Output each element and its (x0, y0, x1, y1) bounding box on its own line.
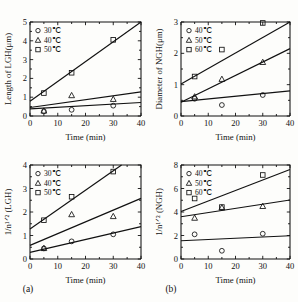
x-tick-label: 10 (204, 118, 213, 128)
y-tick-label: 5 (23, 17, 27, 27)
x-tick-label: 10 (204, 261, 213, 271)
legend-label: 30℃ (44, 26, 61, 35)
y-tick-label: 3 (23, 55, 27, 65)
chart-svg-bottom-right: 01020304002468Time (min)1/n¹ᐟ² (NGH)40℃5… (149, 151, 298, 302)
x-tick-label: 0 (28, 118, 32, 128)
x-tick-label: 30 (109, 118, 118, 128)
y-tick-label: 0 (23, 111, 27, 121)
chart-panel-bottom-left: 01020304001234Time (min)1/n¹ᐟ² (LGH)30℃4… (0, 151, 149, 302)
legend-label: 50℃ (44, 45, 61, 54)
y-tick-label: 0 (174, 254, 178, 264)
y-tick-label: 1 (174, 80, 178, 90)
fit-line-series-0 (181, 91, 290, 102)
x-axis-label: Time (min) (216, 132, 256, 142)
data-point-triangle (69, 211, 75, 216)
chart-svg-top-right: 0102030400123Time (min)Diameter of NGH(μ… (149, 0, 298, 151)
figure-grid: 010203040012345Time (min)Length of LGH(μ… (0, 0, 298, 302)
chart-svg-bottom-left: 01020304001234Time (min)1/n¹ᐟ² (LGH)30℃4… (0, 151, 149, 302)
legend-marker-triangle (186, 37, 191, 42)
x-tick-label: 0 (179, 261, 183, 271)
y-axis-label: Length of LGH(μm) (3, 33, 13, 105)
data-point-triangle (110, 96, 116, 101)
legend-marker-square (36, 47, 40, 51)
data-point-circle (219, 248, 224, 253)
data-point-circle (219, 103, 224, 108)
fit-line-series-0 (181, 236, 290, 241)
legend-marker-triangle (35, 180, 40, 185)
x-tick-label: 40 (286, 261, 295, 271)
legend-label: 50℃ (195, 36, 212, 45)
legend-label: 60℃ (195, 45, 212, 54)
y-tick-label: 2 (23, 73, 27, 83)
data-point-square (260, 173, 265, 178)
legend-marker-square (187, 190, 191, 194)
legend-marker-circle (187, 28, 191, 32)
x-tick-label: 0 (28, 261, 32, 271)
x-tick-label: 30 (109, 261, 118, 271)
panel-label: (b) (165, 284, 176, 295)
x-tick-label: 20 (81, 118, 90, 128)
x-tick-label: 40 (137, 261, 146, 271)
data-point-circle (192, 232, 197, 237)
legend-marker-circle (187, 171, 191, 175)
x-axis-label: Time (min) (216, 275, 256, 285)
fit-line-series-1 (181, 200, 290, 217)
y-tick-label: 3 (23, 184, 27, 194)
panel-label: (a) (23, 284, 34, 295)
y-tick-label: 2 (174, 231, 178, 241)
data-point-triangle (110, 213, 116, 218)
data-point-circle (69, 107, 74, 112)
data-point-circle (260, 231, 265, 236)
y-tick-label: 4 (23, 36, 28, 46)
y-axis-label: Diameter of NGH(μm) (154, 28, 164, 109)
legend-marker-circle (36, 171, 40, 175)
x-tick-label: 20 (231, 261, 240, 271)
legend-label: 40℃ (44, 36, 61, 45)
legend-marker-triangle (35, 37, 40, 42)
y-tick-label: 4 (174, 207, 179, 217)
x-tick-label: 40 (286, 118, 295, 128)
x-axis-label: Time (min) (66, 275, 106, 285)
x-tick-label: 10 (54, 118, 63, 128)
y-tick-label: 0 (174, 111, 178, 121)
chart-panel-top-left: 010203040012345Time (min)Length of LGH(μ… (0, 0, 149, 151)
legend-marker-triangle (186, 180, 191, 185)
legend-label: 40℃ (195, 26, 212, 35)
chart-panel-bottom-right: 01020304002468Time (min)1/n¹ᐟ² (NGH)40℃5… (149, 151, 298, 302)
y-tick-label: 1 (23, 92, 27, 102)
data-point-triangle (69, 92, 75, 97)
y-tick-label: 8 (174, 160, 178, 170)
legend-marker-square (36, 190, 40, 194)
y-tick-label: 4 (23, 160, 28, 170)
axes-group: 0102030400123Time (min)Diameter of NGH(μ… (154, 17, 294, 142)
x-tick-label: 40 (137, 118, 146, 128)
legend-label: 30℃ (44, 169, 61, 178)
y-tick-label: 6 (174, 184, 178, 194)
legend-marker-square (187, 47, 191, 51)
x-axis-label: Time (min) (66, 132, 106, 142)
chart-panel-top-right: 0102030400123Time (min)Diameter of NGH(μ… (149, 0, 298, 151)
x-tick-label: 0 (179, 118, 183, 128)
y-tick-label: 0 (23, 254, 27, 264)
x-tick-label: 30 (259, 118, 268, 128)
legend-label: 40℃ (195, 169, 212, 178)
y-tick-label: 2 (174, 48, 178, 58)
legend-label: 40℃ (44, 179, 61, 188)
data-point-triangle (219, 76, 225, 81)
x-tick-label: 20 (81, 261, 90, 271)
data-point-triangle (192, 215, 198, 220)
axes-group: 01020304001234Time (min)1/n¹ᐟ² (LGH)30℃4… (3, 160, 145, 295)
fit-line-series-1 (30, 198, 141, 245)
x-tick-label: 10 (54, 261, 63, 271)
x-tick-label: 20 (231, 118, 240, 128)
x-tick-label: 30 (259, 261, 268, 271)
legend-label: 60℃ (195, 188, 212, 197)
y-axis-label: 1/n¹ᐟ² (NGH) (154, 188, 164, 236)
y-tick-label: 2 (23, 207, 27, 217)
axes-group: 01020304002468Time (min)1/n¹ᐟ² (NGH)40℃5… (154, 160, 294, 295)
y-tick-label: 1 (23, 231, 27, 241)
data-point-square (220, 47, 225, 52)
legend-marker-circle (36, 28, 40, 32)
legend-label: 50℃ (44, 188, 61, 197)
legend-label: 50℃ (195, 179, 212, 188)
